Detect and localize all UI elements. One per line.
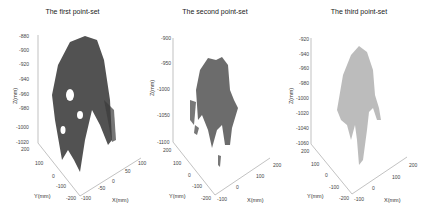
y-tick: 0 bbox=[188, 172, 191, 178]
y-tick: -200 bbox=[66, 195, 76, 201]
z-tick: -1050 bbox=[157, 112, 170, 118]
point-cloud bbox=[52, 36, 116, 172]
z-tick: -900 bbox=[161, 35, 171, 41]
x-tick: -100 bbox=[81, 195, 91, 201]
z-tick: -980 bbox=[19, 105, 29, 111]
y-tick: 100 bbox=[173, 160, 181, 166]
plot-second-point-set: The second point-set -900 -950 -1000 -10… bbox=[140, 0, 290, 214]
z-tick: -1020 bbox=[296, 110, 309, 116]
z-tick: -900 bbox=[19, 47, 29, 53]
plot-axes bbox=[140, 0, 290, 214]
z-tick: -940 bbox=[299, 51, 309, 57]
x-tick: 0 bbox=[112, 178, 115, 184]
z-tick: -950 bbox=[161, 60, 171, 66]
y-tick: 200 bbox=[21, 146, 29, 152]
z-tick: -1000 bbox=[16, 124, 29, 130]
y-tick: 200 bbox=[301, 148, 309, 154]
z-tick: -880 bbox=[19, 33, 29, 39]
y-tick: -100 bbox=[192, 183, 202, 189]
z-tick: -1060 bbox=[296, 140, 309, 146]
x-tick: 0 bbox=[236, 184, 239, 190]
z-tick: -1000 bbox=[296, 95, 309, 101]
z-tick: -1000 bbox=[157, 86, 170, 92]
z-tick: -920 bbox=[299, 36, 309, 42]
z-axis-label: Z(mm) bbox=[149, 80, 155, 96]
x-tick: -100 bbox=[217, 196, 227, 202]
z-tick: -960 bbox=[19, 91, 29, 97]
x-tick: 100 bbox=[256, 173, 264, 179]
plot-first-point-set: The first point-set -880 -900 -920 -940 … bbox=[0, 0, 145, 214]
y-tick: 0 bbox=[52, 173, 55, 179]
y-tick: -100 bbox=[329, 184, 339, 190]
y-axis-label: Y(mm) bbox=[307, 193, 324, 199]
y-tick: -200 bbox=[201, 195, 211, 201]
z-tick: -1040 bbox=[296, 125, 309, 131]
plot-axes bbox=[285, 0, 433, 214]
z-tick: -980 bbox=[299, 80, 309, 86]
x-tick: -100 bbox=[354, 196, 364, 202]
y-tick: 0 bbox=[325, 172, 328, 178]
z-axis-label: Z(mm) bbox=[12, 88, 18, 104]
z-tick: -1020 bbox=[16, 139, 29, 145]
z-tick: -920 bbox=[19, 61, 29, 67]
y-axis-label: Y(mm) bbox=[169, 193, 186, 199]
x-tick: 0 bbox=[372, 185, 375, 191]
y-axis-label: Y(mm) bbox=[34, 193, 51, 199]
y-tick: 100 bbox=[311, 161, 319, 167]
x-tick: 100 bbox=[392, 174, 400, 180]
point-cloud bbox=[337, 46, 381, 165]
x-tick: 200 bbox=[273, 162, 281, 168]
x-tick: 50 bbox=[125, 168, 131, 174]
y-tick: -200 bbox=[339, 195, 349, 201]
plot-third-point-set: The third point-set -920 -940 -960 -980 … bbox=[285, 0, 433, 214]
x-axis-label: X(mm) bbox=[247, 197, 264, 203]
z-tick: -1100 bbox=[157, 139, 169, 145]
x-axis-label: X(mm) bbox=[384, 197, 401, 203]
x-axis-label: X(mm) bbox=[112, 197, 129, 203]
y-tick: 100 bbox=[35, 160, 43, 166]
point-cloud bbox=[190, 57, 238, 167]
z-tick: -940 bbox=[19, 76, 29, 82]
y-tick: -100 bbox=[56, 183, 66, 189]
x-tick: -50 bbox=[98, 185, 105, 191]
y-tick: 200 bbox=[163, 147, 171, 153]
x-tick: 200 bbox=[409, 162, 417, 168]
z-tick: -960 bbox=[299, 65, 309, 71]
z-axis-label: Z(mm) bbox=[288, 88, 294, 104]
